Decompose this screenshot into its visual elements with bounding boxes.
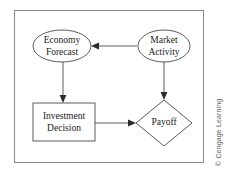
edge-market-to-economy: [91, 43, 137, 50]
market-activity-label-line1: Market: [150, 35, 178, 45]
influence-diagram-figure: Economy Forecast Market Activity Investm…: [0, 0, 234, 172]
copyright-credit: © Cengage Learning: [215, 99, 222, 166]
market-activity-label-line2: Activity: [148, 47, 179, 57]
node-investment-decision[interactable]: Investment Decision: [33, 103, 95, 141]
investment-decision-label-line1: Investment: [43, 111, 86, 121]
economy-forecast-label-line2: Forecast: [46, 47, 79, 57]
node-market-activity[interactable]: Market Activity: [138, 30, 190, 62]
investment-decision-rectangle: [33, 103, 95, 141]
diagram-canvas: Economy Forecast Market Activity Investm…: [0, 0, 234, 172]
edge-investment-to-payoff: [95, 120, 136, 127]
edge-economy-to-investment: [60, 62, 67, 103]
node-economy-forecast[interactable]: Economy Forecast: [33, 30, 91, 62]
node-payoff[interactable]: Payoff: [136, 100, 192, 146]
economy-forecast-label-line1: Economy: [44, 35, 81, 45]
investment-decision-label-line2: Decision: [47, 123, 81, 133]
payoff-label-line1: Payoff: [151, 117, 177, 127]
edge-market-to-payoff: [161, 62, 168, 100]
credit-container: © Cengage Learning: [219, 54, 233, 166]
